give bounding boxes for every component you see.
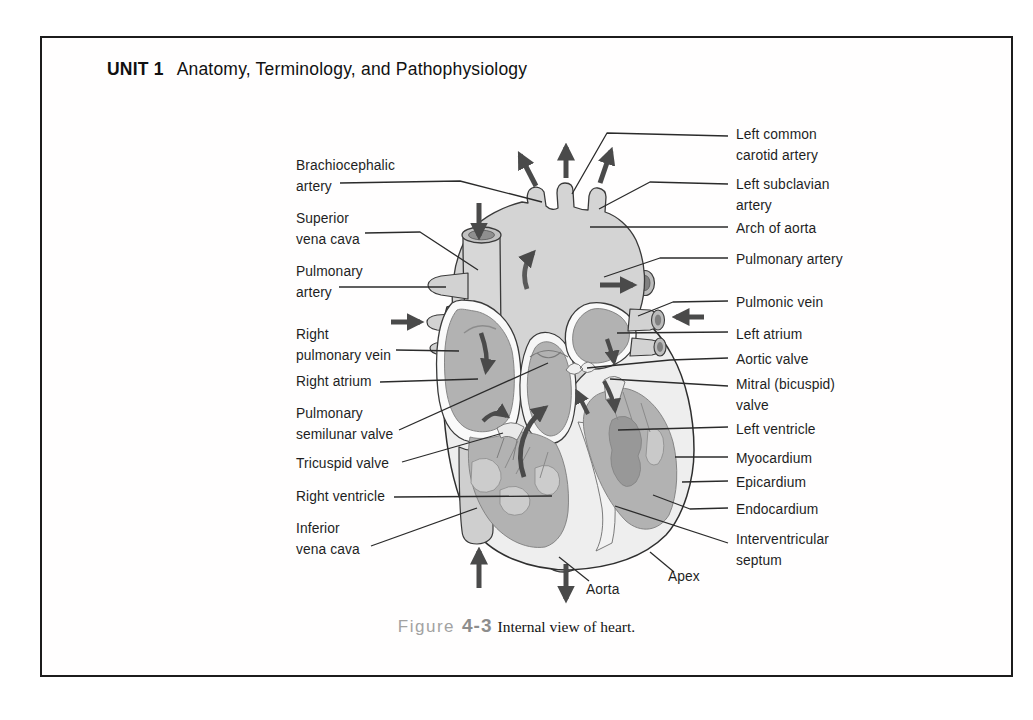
label-pulmonic-vein: Pulmonic vein xyxy=(736,292,823,313)
label-apex: Apex xyxy=(668,566,700,587)
label-left-atrium: Left atrium xyxy=(736,324,802,345)
figure-caption-prefix: Figure xyxy=(398,617,455,636)
label-endocardium: Endocardium xyxy=(736,499,818,520)
label-pulmonary-artery-left: Pulmonary artery xyxy=(296,261,363,303)
label-brachiocephalic-artery: Brachiocephalic artery xyxy=(296,155,395,197)
label-superior-vena-cava: Superior vena cava xyxy=(296,208,360,250)
label-left-ventricle: Left ventricle xyxy=(736,419,816,440)
label-right-pulmonary-vein: Right pulmonary vein xyxy=(296,324,391,366)
figure-caption: Figure4-3Internal view of heart. xyxy=(0,615,1033,637)
label-mitral-bicuspid-valve: Mitral (bicuspid) valve xyxy=(736,374,835,416)
label-pulmonary-artery-right: Pulmonary artery xyxy=(736,249,843,270)
heart-diagram-illustration xyxy=(0,0,1033,720)
label-left-subclavian-artery: Left subclavian artery xyxy=(736,174,830,216)
label-pulmonary-semilunar-valve: Pulmonary semilunar valve xyxy=(296,403,393,445)
label-left-common-carotid-artery: Left common carotid artery xyxy=(736,124,818,166)
label-inferior-vena-cava: Inferior vena cava xyxy=(296,518,360,560)
label-interventricular-septum: Interventricular septum xyxy=(736,529,829,571)
label-right-ventricle: Right ventricle xyxy=(296,486,385,507)
label-aortic-valve: Aortic valve xyxy=(736,349,809,370)
label-aorta: Aorta xyxy=(586,579,619,600)
label-right-atrium: Right atrium xyxy=(296,371,372,392)
label-tricuspid-valve: Tricuspid valve xyxy=(296,453,389,474)
label-epicardium: Epicardium xyxy=(736,472,806,493)
label-myocardium: Myocardium xyxy=(736,448,812,469)
heart-illustration xyxy=(427,183,694,572)
figure-caption-number: 4-3 xyxy=(462,615,492,636)
label-arch-of-aorta: Arch of aorta xyxy=(736,218,816,239)
figure-caption-title: Internal view of heart. xyxy=(497,618,635,635)
